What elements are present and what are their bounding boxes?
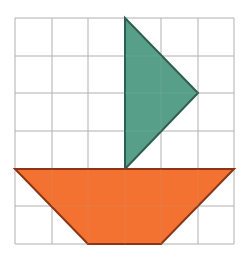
- sailboat-grid-diagram: [0, 0, 247, 261]
